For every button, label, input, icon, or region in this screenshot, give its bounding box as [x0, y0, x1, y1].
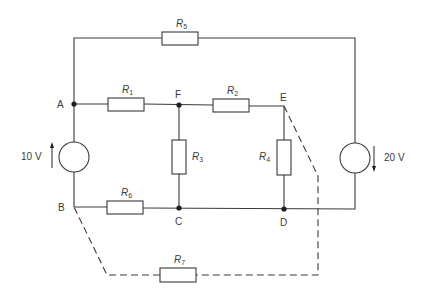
sources	[50, 142, 376, 173]
label-r2: R2	[227, 85, 238, 97]
wire-r6-right	[143, 173, 355, 209]
arrow-down-head-icon	[372, 166, 376, 172]
wires	[74, 38, 355, 209]
node-label-e: E	[280, 92, 287, 103]
node-f-dot	[176, 102, 181, 107]
node-label-b: B	[58, 202, 65, 213]
label-r5: R5	[176, 18, 187, 30]
label-r3: R3	[192, 151, 203, 163]
label-r1: R1	[122, 84, 133, 96]
wire-top-loop	[74, 38, 162, 104]
node-label-a: A	[57, 99, 64, 110]
label-20v: 20 V	[384, 152, 405, 163]
resistor-r6	[107, 201, 143, 214]
resistor-r3	[172, 140, 186, 174]
node-c-dot	[176, 205, 181, 210]
dashed-wire-b	[74, 207, 160, 275]
node-label-d: D	[280, 217, 287, 228]
label-10v: 10 V	[21, 151, 42, 162]
resistor-r2	[213, 99, 249, 112]
resistor-r5	[162, 32, 198, 45]
wire-top-right	[198, 38, 355, 143]
label-r7: R7	[174, 254, 185, 266]
voltage-source-left	[59, 142, 89, 172]
node-label-f: F	[175, 89, 181, 100]
label-r4: R4	[259, 151, 270, 163]
resistor-labels: R5 R1 R2 R3 R4 R6 R7	[121, 18, 270, 266]
resistor-r7	[160, 268, 196, 282]
label-r6: R6	[121, 187, 132, 199]
node-a-dot	[71, 101, 76, 106]
voltage-source-right	[340, 143, 370, 173]
dashed-wire-e	[196, 106, 318, 275]
arrow-up-head-icon	[50, 142, 54, 148]
resistor-r4	[277, 140, 291, 175]
dashed-branch	[74, 106, 318, 275]
node-d-dot	[281, 206, 286, 211]
node-label-c: C	[175, 216, 182, 227]
resistor-r1	[108, 98, 144, 111]
circuit-diagram: A F E B C D R5 R1 R2 R3 R4 R6 R7 10 V 20…	[0, 0, 426, 299]
